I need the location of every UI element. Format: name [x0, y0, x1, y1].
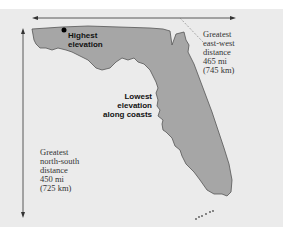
label-line: elevation	[102, 101, 152, 110]
florida-keys	[195, 210, 214, 220]
highest-elevation-label: Highest elevation	[68, 31, 103, 49]
lowest-elevation-label: Lowest elevation along coasts	[102, 92, 152, 119]
label-line: (725 km)	[40, 184, 79, 193]
north-south-arrow	[21, 28, 25, 218]
east-west-distance-label: Greatest east-west distance 465 mi (745 …	[203, 30, 235, 75]
east-west-arrow	[32, 16, 236, 20]
label-line: elevation	[68, 40, 103, 49]
north-south-distance-label: Greatest north-south distance 450 mi (72…	[40, 148, 79, 193]
label-line: Highest	[68, 31, 103, 40]
label-line: (745 km)	[203, 66, 235, 75]
label-line: Lowest	[102, 92, 152, 101]
label-line: along coasts	[102, 110, 152, 119]
highest-elevation-marker	[62, 28, 67, 33]
